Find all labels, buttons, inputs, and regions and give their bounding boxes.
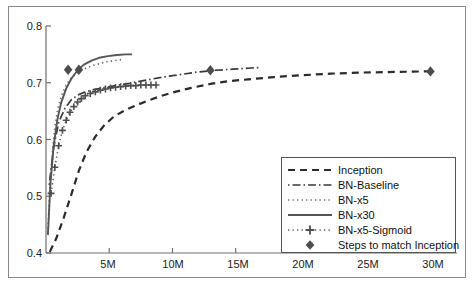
legend-swatch-dotted-line-icon bbox=[286, 193, 334, 207]
xtick-label-2: 15M bbox=[218, 258, 258, 270]
legend-label-bn-x30: BN-x30 bbox=[334, 208, 375, 222]
match-markers bbox=[64, 64, 435, 76]
ytick-label-4: 0.4 bbox=[12, 247, 42, 259]
xtick-label-4: 25M bbox=[348, 258, 388, 270]
legend-item-bn-x5: BN-x5 bbox=[286, 192, 452, 207]
legend-swatch-dashed-line-icon bbox=[286, 163, 334, 177]
chart-legend: Inception BN-Baseline BN-x5 bbox=[281, 157, 456, 253]
plus-marker bbox=[153, 82, 160, 89]
legend-item-bn-baseline: BN-Baseline bbox=[286, 177, 452, 192]
legend-item-bn-x5-sigmoid: BN-x5-Sigmoid bbox=[286, 222, 452, 237]
legend-label-bn-x5-sigmoid: BN-x5-Sigmoid bbox=[334, 223, 412, 237]
legend-label-bn-x5: BN-x5 bbox=[334, 193, 369, 207]
plus-marker bbox=[55, 142, 62, 149]
legend-label-bn-baseline: BN-Baseline bbox=[334, 178, 399, 192]
plus-marker bbox=[67, 109, 74, 116]
xtick-label-3: 20M bbox=[283, 258, 323, 270]
diamond-marker bbox=[64, 64, 73, 74]
legend-item-steps-to-match: Steps to match Inception bbox=[286, 237, 452, 252]
chart-figure: 0.8 0.7 0.6 0.5 0.4 5M 10M 15M 20M 25M 3… bbox=[0, 0, 476, 289]
legend-label-steps-to-match: Steps to match Inception bbox=[334, 238, 459, 252]
legend-swatch-diamond-marker-icon bbox=[286, 238, 334, 252]
series-line-bn-x5-sigmoid bbox=[51, 85, 156, 193]
legend-item-bn-x30: BN-x30 bbox=[286, 207, 452, 222]
diamond-marker bbox=[426, 66, 435, 76]
legend-item-inception: Inception bbox=[286, 162, 452, 177]
xtick-label-0: 5M bbox=[88, 258, 128, 270]
ytick-label-1: 0.7 bbox=[12, 77, 42, 89]
diamond-marker bbox=[206, 65, 215, 75]
legend-label-inception: Inception bbox=[334, 163, 383, 177]
legend-swatch-plus-marker-icon bbox=[286, 223, 334, 237]
ytick-label-2: 0.6 bbox=[12, 134, 42, 146]
ytick-label-3: 0.5 bbox=[12, 190, 42, 202]
plus-marker bbox=[59, 127, 66, 134]
xtick-label-1: 10M bbox=[153, 258, 193, 270]
plus-marker bbox=[70, 103, 77, 110]
legend-swatch-dashdot-line-icon bbox=[286, 178, 334, 192]
plus-marker bbox=[63, 117, 70, 124]
legend-swatch-solid-line-icon bbox=[286, 208, 334, 222]
ytick-label-0: 0.8 bbox=[12, 20, 42, 32]
xtick-label-5: 30M bbox=[413, 258, 453, 270]
